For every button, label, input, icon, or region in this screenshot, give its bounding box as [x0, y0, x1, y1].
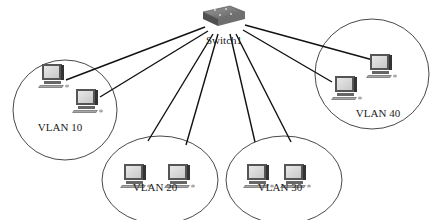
vlan-network-diagram: Switch1 VLAN 10VLAN 20VLAN 30VLAN 40 — [0, 0, 431, 220]
vlan-group: VLAN 20 — [120, 164, 195, 193]
vlan-label: VLAN 40 — [356, 107, 401, 119]
vlan-group: VLAN 10 — [38, 64, 103, 133]
pc-icon[interactable] — [331, 76, 362, 100]
vlan-group: VLAN 30 — [243, 164, 311, 193]
vlan-label: VLAN 10 — [38, 121, 83, 133]
switch-icon — [203, 6, 245, 26]
network-link — [230, 34, 255, 142]
network-link — [66, 27, 205, 80]
network-link — [100, 31, 208, 97]
switch-label: Switch1 — [206, 34, 242, 46]
pc-icon[interactable] — [72, 89, 103, 113]
switch-node[interactable]: Switch1 — [203, 6, 245, 46]
vlan-label: VLAN 20 — [133, 181, 178, 193]
vlan-circles — [13, 19, 429, 220]
vlan-label: VLAN 30 — [258, 181, 303, 193]
pc-icon[interactable] — [38, 64, 69, 88]
network-link — [236, 34, 291, 142]
pc-icon[interactable] — [366, 54, 397, 78]
network-link — [186, 34, 218, 145]
vlan-boundary — [102, 136, 218, 220]
vlan-group: VLAN 40 — [331, 54, 401, 119]
